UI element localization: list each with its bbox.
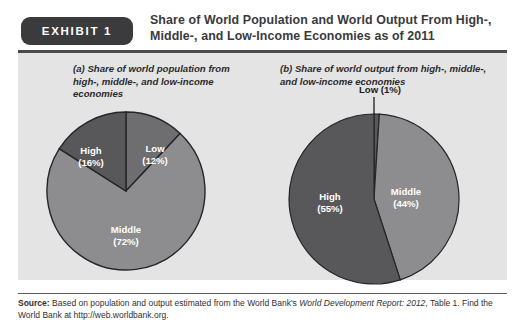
charts-panel: (a) Share of world population from high-… [18,53,507,280]
pie-a-label-high-name: High [80,145,101,156]
pie-chart-b-svg: Low (1%) Middle (44%) High (55%) [282,99,467,294]
pie-a-label-low-name: Low [145,143,165,154]
pie-chart-b-caption-prefix: (b) [280,63,292,74]
pie-a-label-high-value: (16%) [78,157,104,168]
pie-a-label-low-value: (12%) [142,155,168,166]
pie-chart-a-caption: (a) Share of world population from high-… [73,63,258,101]
source-note: Source: Based on population and output e… [18,298,513,321]
pie-b-label-high-name: High [319,191,340,202]
pie-chart-a-block: (a) Share of world population from high-… [18,53,262,280]
exhibit-header: EXHIBIT 1 Share of World Population and … [0,0,527,52]
pie-b-label-low: Low (1%) [359,84,401,95]
pie-b-label-high-value: (55%) [317,203,343,214]
source-label: Source: [18,298,50,308]
pie-chart-b-block: (b) Share of world output from high-, mi… [262,53,507,280]
exhibit-badge-label: EXHIBIT 1 [42,25,112,37]
pie-b-label-middle-value: (44%) [393,198,419,209]
pie-chart-a-caption-prefix: (a) [73,63,85,74]
source-report-title: World Development Report: 2012 [299,298,425,308]
exhibit-figure: EXHIBIT 1 Share of World Population and … [0,0,527,332]
pie-chart-a: Low (12%) Middle (72%) High (16%) [42,105,217,280]
pie-a-label-middle-value: (72%) [113,236,139,247]
source-divider [18,293,507,294]
exhibit-badge: EXHIBIT 1 [21,17,133,45]
pie-chart-a-svg: Low (12%) Middle (72%) High (16%) [42,105,217,280]
pie-chart-a-caption-text: Share of world population from high-, mi… [73,63,230,99]
pie-a-label-middle-name: Middle [111,224,141,235]
pie-b-slices [289,114,459,284]
pie-b-label-middle-name: Middle [391,186,421,197]
source-text-before: Based on population and output estimated… [50,298,300,308]
exhibit-title: Share of World Population and World Outp… [150,13,510,44]
pie-chart-b: Low (1%) Middle (44%) High (55%) [282,99,467,284]
